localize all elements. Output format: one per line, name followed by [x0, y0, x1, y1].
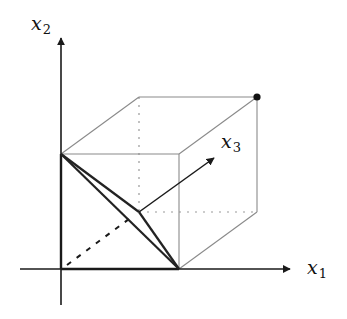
x3-axis [139, 158, 214, 212]
x2-label: x2 [31, 12, 51, 37]
x1-label: x1 [307, 256, 327, 281]
simplex-triangle [61, 154, 179, 269]
corner-dot [253, 93, 260, 100]
cube-diagram: x2 x3 x1 [0, 0, 347, 319]
x3-label: x3 [221, 130, 241, 155]
diagram-canvas: x2 x3 x1 [0, 0, 347, 319]
x3-axis-hidden [67, 216, 133, 265]
